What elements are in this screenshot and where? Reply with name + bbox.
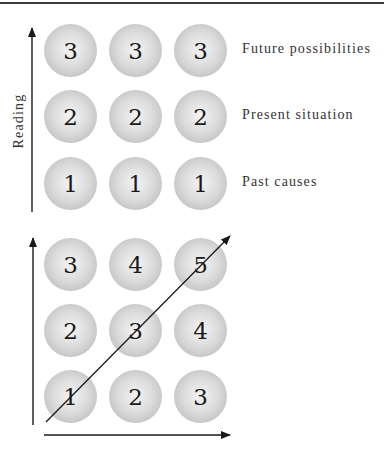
reading-axis-label: Reading <box>11 93 27 148</box>
ball-bottom-r3-c1: 3 <box>44 238 97 291</box>
ball-top-r1-c1: 1 <box>44 157 97 210</box>
ball-bottom-r2-c3: 4 <box>174 304 227 357</box>
label-past-causes: Past causes <box>242 174 317 190</box>
ball-top-r2-c2: 2 <box>109 90 162 143</box>
ball-top-r3-c2: 3 <box>109 24 162 77</box>
ball-top-r2-c3: 2 <box>174 90 227 143</box>
ball-bottom-r1-c1: 1 <box>44 370 97 423</box>
ball-bottom-r1-c3: 3 <box>174 370 227 423</box>
label-present-situation: Present situation <box>242 107 354 123</box>
ball-bottom-r2-c1: 2 <box>44 304 97 357</box>
ball-bottom-r2-c2: 3 <box>109 304 162 357</box>
ball-top-r1-c2: 1 <box>109 157 162 210</box>
label-future-possibilities: Future possibilities <box>242 41 371 57</box>
ball-top-r3-c1: 3 <box>44 24 97 77</box>
ball-bottom-r3-c3: 5 <box>174 238 227 291</box>
ball-top-r3-c3: 3 <box>174 24 227 77</box>
ball-top-r2-c1: 2 <box>44 90 97 143</box>
ball-top-r1-c3: 1 <box>174 157 227 210</box>
ball-bottom-r3-c2: 4 <box>109 238 162 291</box>
ball-bottom-r1-c2: 2 <box>109 370 162 423</box>
